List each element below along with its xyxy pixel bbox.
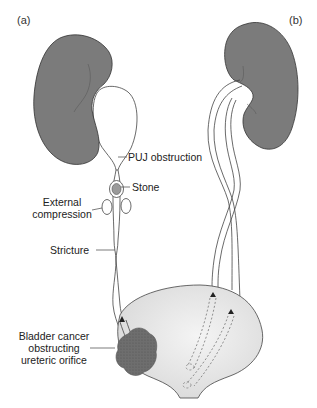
label-bladder-cancer: Bladder cancer obstructing ureteric orif…: [14, 330, 94, 366]
panel-a: [34, 35, 137, 348]
panel-label-b: (b): [289, 14, 302, 26]
kidney-b: [225, 22, 298, 149]
label-stricture: Stricture: [50, 244, 89, 256]
panel-label-a: (a): [17, 14, 30, 26]
urinary-obstruction-diagram: (a) (b) PUJ obstruction Stone External c…: [0, 0, 317, 408]
bladder: [116, 285, 263, 398]
external-compression-right: [121, 199, 131, 214]
duplex-ureter-1: [208, 80, 240, 290]
panel-b: [208, 22, 298, 300]
label-stone: Stone: [132, 181, 159, 193]
label-external-compression: External compression: [30, 196, 94, 220]
external-compression-left: [102, 200, 112, 215]
stone: [112, 184, 121, 195]
label-puj-obstruction: PUJ obstruction: [128, 151, 202, 163]
